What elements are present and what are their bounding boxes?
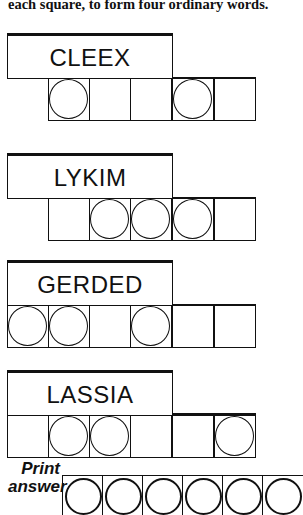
letter-tile-circled[interactable] (130, 305, 172, 348)
letter-tile[interactable] (48, 198, 90, 241)
scrambled-word-box: GERDED (7, 260, 173, 306)
letter-tile-circled[interactable] (214, 415, 256, 458)
answer-tile[interactable] (62, 475, 103, 515)
letter-tile[interactable] (172, 415, 214, 458)
letter-tile[interactable] (89, 78, 131, 121)
circle-icon (265, 478, 302, 515)
circle-icon (49, 79, 88, 119)
scrambled-word: LYKIM (8, 164, 172, 192)
letter-tile-circled[interactable] (48, 415, 90, 458)
circle-icon (8, 306, 47, 346)
letter-tile[interactable] (130, 78, 172, 121)
letter-tile-circled[interactable] (172, 78, 214, 121)
answer-tile[interactable] (102, 475, 143, 515)
circle-icon (185, 478, 222, 515)
letter-tile-circled[interactable] (89, 198, 131, 241)
letter-tile[interactable] (172, 305, 214, 348)
letter-tile[interactable] (130, 415, 172, 458)
scrambled-word: LASSIA (8, 381, 172, 409)
scrambled-word: GERDED (8, 271, 172, 299)
label-line-2: answer (8, 478, 60, 496)
letter-tile-circled[interactable] (48, 305, 90, 348)
instructions-text: each square, to form four ordinary words… (8, 0, 273, 13)
letter-tile[interactable] (7, 415, 49, 458)
scrambled-word: CLEEX (8, 44, 172, 72)
circle-icon (173, 79, 212, 119)
letter-tile[interactable] (214, 305, 256, 348)
circle-icon (131, 306, 170, 346)
circle-icon (90, 199, 129, 239)
letter-tile-circled[interactable] (130, 198, 172, 241)
letter-tile-circled[interactable] (7, 305, 49, 348)
answer-tile[interactable] (182, 475, 223, 515)
scrambled-word-box: CLEEX (7, 33, 173, 79)
scrambled-word-box: LASSIA (7, 370, 173, 416)
circle-icon (215, 416, 254, 456)
letter-tile-circled[interactable] (48, 78, 90, 121)
circle-icon (49, 416, 88, 456)
scrambled-word-box: LYKIM (7, 153, 173, 199)
letter-tile[interactable] (214, 78, 256, 121)
circle-icon (49, 306, 88, 346)
print-answer-label: Print answer (8, 460, 60, 496)
circle-icon (105, 478, 142, 515)
letter-tile-circled[interactable] (89, 415, 131, 458)
letter-tile[interactable] (89, 305, 131, 348)
letter-tile[interactable] (214, 198, 256, 241)
circle-icon (90, 416, 129, 456)
label-line-1: Print (8, 460, 60, 478)
answer-tile[interactable] (142, 475, 183, 515)
answer-tile[interactable] (262, 475, 303, 515)
circle-icon (131, 199, 170, 239)
letter-tile-circled[interactable] (172, 198, 214, 241)
circle-icon (225, 478, 262, 515)
circle-icon (145, 478, 182, 515)
circle-icon (173, 199, 212, 239)
answer-tile[interactable] (222, 475, 263, 515)
circle-icon (65, 478, 102, 515)
